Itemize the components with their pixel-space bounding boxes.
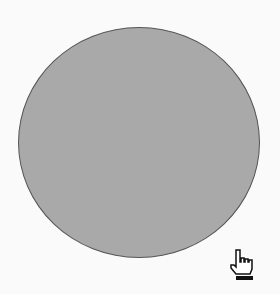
hand-pointer-icon xyxy=(228,248,260,282)
circle-shape[interactable] xyxy=(18,27,260,258)
